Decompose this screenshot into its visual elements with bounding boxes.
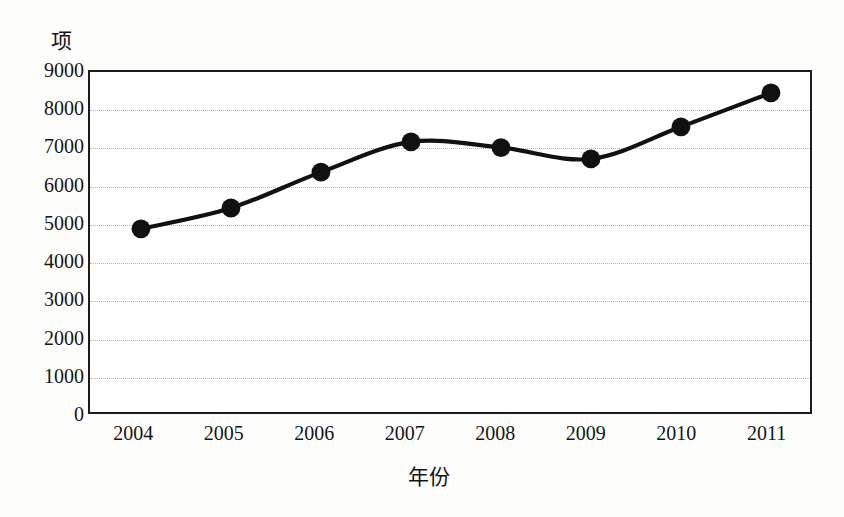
y-axis-tick-label: 9000 <box>0 60 84 80</box>
x-axis-tick-label: 2006 <box>269 418 359 448</box>
x-axis-tick-label: 2011 <box>722 418 812 448</box>
y-axis-tick-label: 3000 <box>0 289 84 309</box>
x-axis-tick-label: 2008 <box>450 418 540 448</box>
data-point-marker: 2004: 4850 <box>132 219 151 238</box>
x-axis-tick-label: 2004 <box>88 418 178 448</box>
chart-page: 项 9000800070006000500040003000200010000 … <box>0 0 844 517</box>
y-axis-tick-label: 8000 <box>0 98 84 118</box>
y-axis-tick-label: 6000 <box>0 175 84 195</box>
line-series: 2004: 48502005: 54002006: 63502007: 7150… <box>90 72 810 412</box>
data-point-marker: 2006: 6350 <box>312 163 331 182</box>
y-axis-tick-label: 7000 <box>0 136 84 156</box>
y-axis-tick-label: 1000 <box>0 366 84 386</box>
y-axis-tick-label: 2000 <box>0 328 84 348</box>
x-axis-title: 年份 <box>0 462 844 492</box>
x-axis-tick-label: 2009 <box>541 418 631 448</box>
data-point-marker: 2008: 7000 <box>492 138 511 157</box>
x-axis-tick-label: 2005 <box>179 418 269 448</box>
data-point-marker: 2005: 5400 <box>222 199 241 218</box>
data-point-marker: 2011: 8450 <box>762 83 781 102</box>
x-axis-tick-labels: 20042005200620072008200920102011 <box>0 418 844 452</box>
data-point-marker: 2007: 7150 <box>402 132 421 151</box>
y-axis-tick-label: 4000 <box>0 251 84 271</box>
y-axis-tick-label: 5000 <box>0 213 84 233</box>
x-axis-title-text: 年份 <box>408 465 450 489</box>
plot-area: 2004: 48502005: 54002006: 63502007: 7150… <box>88 70 812 414</box>
x-axis-tick-label: 2007 <box>360 418 450 448</box>
data-point-marker: 2009: 6700 <box>582 149 601 168</box>
data-point-marker: 2010: 7550 <box>672 117 691 136</box>
x-axis-tick-label: 2010 <box>631 418 721 448</box>
